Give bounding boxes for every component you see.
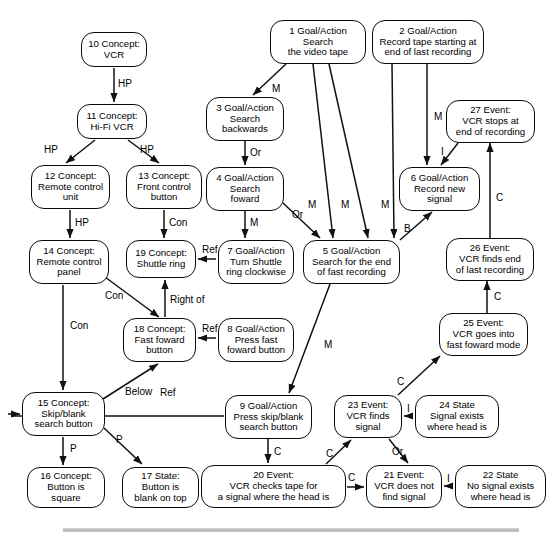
edge-label-n15-n18: Below	[125, 387, 152, 397]
node-label: 18 Concept: Fast foward button	[127, 324, 192, 356]
diagram-canvas: 1 Goal/Action Search the video tape2 Goa…	[0, 0, 559, 541]
edge-label-n23-n25: C	[397, 377, 404, 387]
node-label: 10 Concept: VCR	[85, 39, 143, 60]
edge-n1-n5	[313, 64, 333, 238]
edge-label-n4-n5: Or	[292, 210, 303, 220]
node-label: 12 Concept: Remote control unit	[35, 171, 106, 203]
edge-label-n13-n19: Con	[169, 218, 187, 228]
edge-label-n8-n18: Ref	[202, 324, 218, 334]
bottom-horizontal-rule	[63, 528, 519, 532]
node-19[interactable]: 19 Concept: Shuttle ring	[126, 240, 196, 278]
edge-label-n2-n6: M	[434, 112, 442, 122]
node-6[interactable]: 6 Goal/Action Record new signal	[399, 167, 480, 211]
edge-label-n12-n14: HP	[75, 218, 89, 228]
node-label: 1 Goal/Action Search the video tape	[274, 26, 362, 58]
edge-label-n15-n16: P	[70, 444, 77, 454]
edge-label-n11-n13: HP	[140, 145, 154, 155]
node-label: 17 State: Button is blank on top	[126, 471, 195, 503]
edge-label-n10-n11: HP	[118, 79, 132, 89]
node-3[interactable]: 3 Goal/Action Search backwards	[206, 97, 284, 141]
node-8[interactable]: 8 Goal/Action Press fast foward button	[218, 318, 294, 362]
node-label: 3 Goal/Action Search backwards	[210, 103, 280, 135]
node-15[interactable]: 15 Concept: Skip/blank search button	[22, 392, 105, 436]
node-25[interactable]: 25 Event: VCR goes into fast foward mode	[439, 313, 528, 356]
edge-label-n26-n27: C	[496, 193, 503, 203]
node-label: 23 Event: VCR finds signal	[338, 400, 398, 432]
edge-label-n27-n6: I	[441, 147, 444, 157]
edge-n2-n5	[392, 64, 394, 238]
edge-n11-n12	[66, 140, 95, 163]
node-label: 15 Concept: Skip/blank search button	[26, 398, 101, 430]
node-1[interactable]: 1 Goal/Action Search the video tape	[270, 20, 366, 64]
node-12[interactable]: 12 Concept: Remote control unit	[31, 165, 110, 209]
node-18[interactable]: 18 Concept: Fast foward button	[123, 318, 196, 362]
edge-n1-n3	[253, 64, 286, 95]
node-label: 21 Event: VCR does not find signal	[370, 470, 438, 502]
node-label: 14 Concept: Remote control panel	[33, 246, 105, 278]
node-label: 24 State Signal exists where head is	[419, 400, 495, 432]
edge-label-n9-n15: Ref	[160, 388, 176, 398]
edge-label-n3-n4: Or	[250, 148, 261, 158]
edge-label-n22-n21: I	[447, 474, 450, 484]
node-27[interactable]: 27 Event: VCR stops at end of recording	[446, 100, 535, 143]
node-label: 20 Event: VCR checks tape for a signal w…	[205, 470, 342, 502]
edge-label-n14-n15: Con	[70, 321, 88, 331]
node-label: 26 Event: VCR finds end of last recordin…	[450, 243, 530, 275]
edge-label-n5-n9: M	[324, 340, 332, 350]
node-24[interactable]: 24 State Signal exists where head is	[415, 395, 499, 438]
edge-label-n1-n3: M	[272, 84, 280, 94]
node-label: 2 Goal/Action Record tape starting at en…	[376, 26, 480, 58]
edge-label-n25-n26: C	[494, 292, 501, 302]
edge-label-n14-n18: Con	[105, 291, 123, 301]
node-label: 9 Goal/Action Press skip/blank search bu…	[229, 401, 308, 433]
node-label: 4 Goal/Action Search foward	[210, 173, 280, 205]
node-label: 11 Concept: Hi-Fi VCR	[81, 111, 143, 132]
node-label: 7 Goal/Action Turn Shuttle ring clockwis…	[222, 246, 290, 278]
edge-n15-n17	[104, 428, 142, 464]
node-2[interactable]: 2 Goal/Action Record tape starting at en…	[372, 20, 484, 64]
edge-n1-n5	[329, 64, 368, 238]
edge-n23-n25	[398, 356, 440, 395]
edge-label-n20-n23: C	[326, 449, 333, 459]
edge-label-n5-n6: B	[404, 224, 411, 234]
node-21[interactable]: 21 Event: VCR does not find signal	[366, 465, 442, 508]
node-label: 22 State No signal exists where head is	[459, 470, 542, 502]
edge-label-n23-n21: Or	[392, 447, 403, 457]
node-10[interactable]: 10 Concept: VCR	[81, 32, 147, 67]
edge-label-n24-n23: I	[407, 404, 410, 414]
edge-label-n2-n5: M	[381, 200, 389, 210]
node-label: 6 Goal/Action Record new signal	[403, 173, 476, 205]
node-5[interactable]: 5 Goal/Action Search for the end of fast…	[303, 240, 400, 284]
node-label: 16 Concept: Button is square	[31, 471, 101, 503]
node-label: 25 Event: VCR goes into fast foward mode	[443, 318, 524, 350]
edge-label-n4-n7: M	[250, 218, 258, 228]
node-26[interactable]: 26 Event: VCR finds end of last recordin…	[446, 238, 534, 281]
node-label: 13 Concept: Front control button	[130, 171, 198, 203]
edge-label-n20-n21: C	[348, 473, 355, 483]
node-17[interactable]: 17 State: Button is blank on top	[122, 467, 199, 508]
edge-label-n1-n5: M	[308, 200, 316, 210]
node-7[interactable]: 7 Goal/Action Turn Shuttle ring clockwis…	[218, 240, 294, 284]
edge-label-n1-n5: M	[341, 200, 349, 210]
node-16[interactable]: 16 Concept: Button is square	[27, 467, 105, 508]
node-13[interactable]: 13 Concept: Front control button	[126, 165, 202, 209]
node-23[interactable]: 23 Event: VCR finds signal	[334, 395, 402, 438]
node-4[interactable]: 4 Goal/Action Search foward	[206, 167, 284, 211]
edge-label-n7-n19: Ref	[202, 245, 218, 255]
node-label: 19 Concept: Shuttle ring	[130, 248, 192, 269]
node-label: 27 Event: VCR stops at end of recording	[450, 105, 531, 137]
node-label: 5 Goal/Action Search for the end of fast…	[307, 246, 396, 278]
node-14[interactable]: 14 Concept: Remote control panel	[29, 240, 109, 284]
edge-label-n15-n17: P	[116, 435, 123, 445]
edge-label-n11-n12: HP	[44, 145, 58, 155]
edge-label-n9-n20: C	[274, 447, 281, 457]
node-9[interactable]: 9 Goal/Action Press skip/blank search bu…	[225, 395, 312, 439]
edge-label-n18-n19: Right of	[170, 295, 204, 305]
node-11[interactable]: 11 Concept: Hi-Fi VCR	[77, 104, 147, 139]
node-20[interactable]: 20 Event: VCR checks tape for a signal w…	[201, 465, 346, 508]
node-label: 8 Goal/Action Press fast foward button	[222, 324, 290, 356]
node-22[interactable]: 22 State No signal exists where head is	[455, 465, 546, 508]
